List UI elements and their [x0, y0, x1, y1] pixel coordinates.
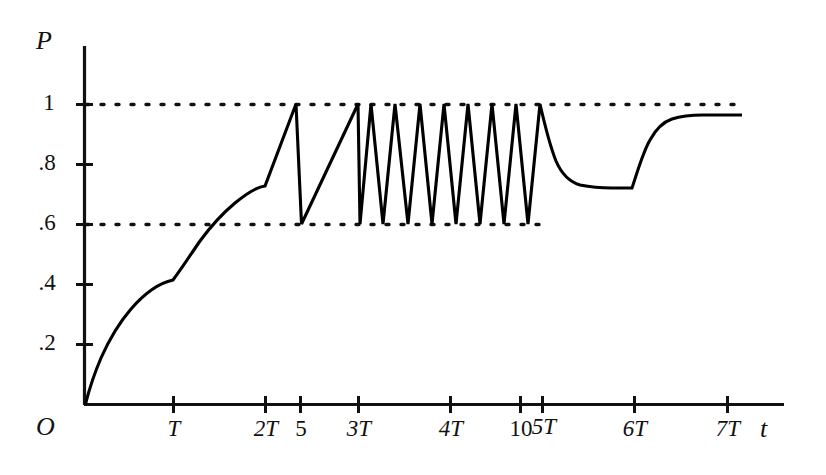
x-tick-label-2t: 2T — [246, 416, 286, 442]
x-tick-label-5t: 5T — [524, 414, 564, 440]
y-tick-label-1: 1 — [33, 90, 65, 116]
x-tick-label-t: T — [158, 416, 190, 442]
x-tick-label-7t: 7T — [708, 416, 748, 442]
y-tick-label-02: .2 — [29, 330, 65, 356]
y-tick-label-06: .6 — [29, 210, 65, 236]
x-axis-title: t — [760, 414, 767, 444]
x-tick-label-5: 5 — [287, 416, 315, 442]
y-tick-label-08: .8 — [29, 150, 65, 176]
x-tick-label-3t: 3T — [339, 416, 379, 442]
chart-plot-area — [0, 0, 826, 475]
origin-label: O — [36, 412, 55, 442]
y-tick-label-04: .4 — [29, 270, 65, 296]
y-axis-title: P — [36, 26, 52, 56]
chart-figure: P t O 1 .8 .6 .4 .2 T 2T 5 3T 4T 10 5T 6… — [0, 0, 826, 475]
data-series-p-of-t — [86, 104, 743, 404]
x-tick-label-6t: 6T — [615, 416, 655, 442]
x-tick-label-4t: 4T — [431, 416, 471, 442]
